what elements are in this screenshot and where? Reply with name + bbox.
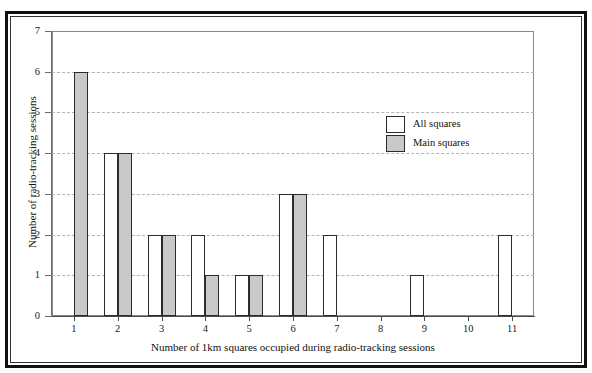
y-tick-mark <box>45 235 52 236</box>
x-tick-label: 10 <box>448 323 488 334</box>
x-tick-label: 7 <box>317 323 357 334</box>
gridline <box>52 112 534 113</box>
x-tick-mark <box>381 316 382 321</box>
bar-all-squares-6 <box>279 194 293 316</box>
legend-swatch-all-squares <box>386 116 405 133</box>
x-tick-mark <box>162 316 163 321</box>
legend-swatch-main-squares <box>386 135 405 152</box>
x-tick-mark <box>249 316 250 321</box>
x-tick-mark <box>468 316 469 321</box>
legend-label-main-squares: Main squares <box>413 136 469 150</box>
x-tick-label: 4 <box>185 323 225 334</box>
y-tick-mark <box>45 316 52 317</box>
legend-item-main-squares: Main squares <box>386 135 506 152</box>
y-tick-mark <box>45 194 52 195</box>
x-tick-mark <box>205 316 206 321</box>
bar-main-squares-1 <box>74 72 88 316</box>
y-tick-label: 0 <box>14 311 40 322</box>
bar-all-squares-5 <box>235 275 249 316</box>
x-axis-title: Number of 1km squares occupied during ra… <box>52 341 534 353</box>
bar-main-squares-2 <box>118 153 132 316</box>
y-tick-mark <box>45 112 52 113</box>
x-tick-label: 2 <box>98 323 138 334</box>
x-tick-label: 5 <box>229 323 269 334</box>
top-cropped-artifact <box>300 0 420 9</box>
y-tick-mark <box>45 275 52 276</box>
bar-all-squares-3 <box>148 235 162 316</box>
bar-all-squares-11 <box>498 235 512 316</box>
x-tick-mark <box>424 316 425 321</box>
bar-all-squares-2 <box>104 153 118 316</box>
x-tick-label: 8 <box>361 323 401 334</box>
x-tick-mark <box>74 316 75 321</box>
x-tick-mark <box>293 316 294 321</box>
legend: All squares Main squares <box>386 116 506 156</box>
legend-item-all-squares: All squares <box>386 116 506 133</box>
y-tick-mark <box>45 31 52 32</box>
bar-all-squares-7 <box>323 235 337 316</box>
y-axis-title: Number of radio-tracking sessions <box>26 52 38 292</box>
y-axis-line <box>51 31 52 317</box>
bar-all-squares-9 <box>410 275 424 316</box>
x-tick-mark <box>118 316 119 321</box>
y-tick-mark <box>45 153 52 154</box>
y-tick-label: 7 <box>14 26 40 37</box>
x-tick-label: 11 <box>492 323 532 334</box>
x-tick-label: 3 <box>142 323 182 334</box>
chart-figure: 01234567 1234567891011 Number of radio-t… <box>0 0 592 373</box>
x-tick-mark <box>512 316 513 321</box>
bar-main-squares-6 <box>293 194 307 316</box>
x-tick-label: 9 <box>404 323 444 334</box>
legend-label-all-squares: All squares <box>413 117 461 131</box>
x-tick-label: 6 <box>273 323 313 334</box>
x-tick-mark <box>337 316 338 321</box>
x-tick-label: 1 <box>54 323 94 334</box>
y-tick-mark <box>45 72 52 73</box>
gridline <box>52 72 534 73</box>
bar-all-squares-4 <box>191 235 205 316</box>
bar-main-squares-3 <box>162 235 176 316</box>
bar-main-squares-4 <box>205 275 219 316</box>
bar-main-squares-5 <box>249 275 263 316</box>
